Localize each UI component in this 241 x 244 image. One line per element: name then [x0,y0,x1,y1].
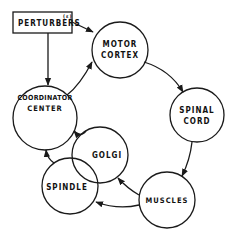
motor-cortex-node [92,22,148,78]
spindle-label: SPINDLE [46,183,88,192]
edge-muscles-to-spindle [96,202,139,207]
spinal-cord-label-1: SPINAL [179,106,214,115]
perturbers-superscript: (ε) [63,13,73,19]
muscles-label: MUSCLES [146,196,189,205]
golgi-label: GOLGI [92,151,122,160]
motor-cortex-label-1: MOTOR [103,40,138,49]
perturbers-label: PERTURBERS [18,19,81,28]
control-loop-diagram: PERTURBERS (ε) MOTOR CORTEX SPINAL CORD … [0,0,241,244]
edge-spindle-to-coordinator [46,150,54,163]
motor-cortex-label-2: CORTEX [101,51,139,60]
edge-motor-cortex-to-spinal-cord [144,62,183,92]
spinal-cord-label-2: CORD [184,117,211,126]
edge-spinal-cord-to-muscles [182,142,192,176]
coordinator-label-1: COORDINATOR [17,94,72,102]
edge-muscles-to-golgi [118,178,139,195]
spinal-cord-node [170,88,224,142]
coordinator-label-2: CENTER [27,104,63,113]
edge-coordinator-to-motor-cortex [67,62,92,95]
